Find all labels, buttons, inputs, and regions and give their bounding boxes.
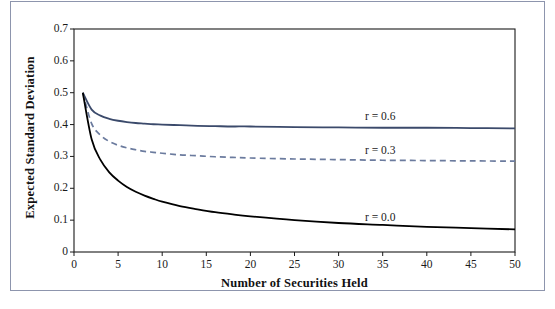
- x-tick-label: 25: [282, 258, 308, 270]
- x-tick-label: 10: [149, 258, 175, 270]
- x-tick-label: 5: [105, 258, 131, 270]
- y-axis-title: Expected Standard Deviation: [23, 38, 38, 238]
- series-label: r = 0.3: [365, 144, 395, 156]
- y-tick-label: 0.5: [42, 86, 68, 98]
- x-axis-title: Number of Securities Held: [74, 276, 515, 291]
- y-tick-label: 0.4: [42, 118, 68, 130]
- y-tick-label: 0: [42, 245, 68, 257]
- y-tick-label: 0.2: [42, 181, 68, 193]
- series-line-0: [83, 93, 515, 129]
- y-tick-label: 0.7: [42, 22, 68, 34]
- series-label: r = 0.0: [365, 211, 395, 223]
- y-tick-label: 0.1: [42, 213, 68, 225]
- series-group: [83, 93, 515, 230]
- x-tick-label: 45: [458, 258, 484, 270]
- x-tick-label: 15: [193, 258, 219, 270]
- series-label: r = 0.6: [365, 110, 395, 122]
- x-tick-label: 35: [370, 258, 396, 270]
- axes-group: [70, 29, 515, 256]
- x-tick-label: 20: [237, 258, 263, 270]
- x-tick-label: 50: [502, 258, 528, 270]
- x-tick-label: 30: [326, 258, 352, 270]
- plot-frame: [74, 29, 515, 252]
- x-tick-label: 40: [414, 258, 440, 270]
- y-tick-label: 0.3: [42, 149, 68, 161]
- y-tick-label: 0.6: [42, 54, 68, 66]
- x-tick-label: 0: [61, 258, 87, 270]
- chart-figure: 00.10.20.30.40.50.60.7 05101520253035404…: [0, 0, 555, 309]
